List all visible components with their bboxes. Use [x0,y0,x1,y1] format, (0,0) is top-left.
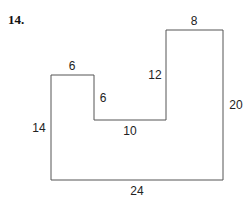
label-bottom-width: 24 [130,184,144,198]
label-inner-right-rise: 12 [148,68,162,82]
label-inner-bottom: 10 [123,124,137,138]
label-left-height: 14 [32,121,46,135]
label-right-height: 20 [229,98,243,112]
polygon-outline [51,30,223,180]
label-top-left-width: 6 [69,59,76,73]
label-top-right-width: 8 [191,14,198,28]
label-inner-left-drop: 6 [100,91,107,105]
polygon-figure: 6 6 10 12 8 20 24 14 [0,0,247,198]
